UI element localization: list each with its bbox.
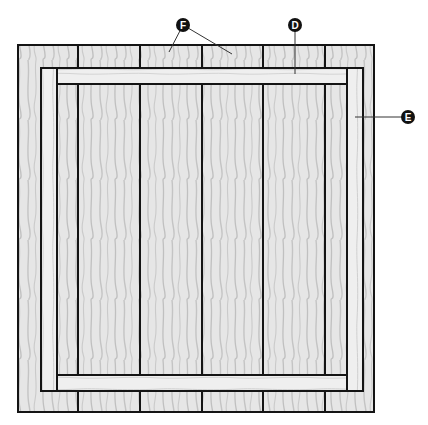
- left-stile: [41, 68, 57, 391]
- top-rail: [57, 68, 347, 84]
- door-assembly-diagram: F D E: [0, 0, 428, 425]
- board-4: [202, 45, 263, 412]
- bottom-rail: [57, 375, 347, 391]
- board-2: [78, 45, 140, 412]
- label-e: E: [405, 112, 412, 123]
- boards-group: [18, 45, 374, 412]
- board-3: [140, 45, 202, 412]
- board-5: [263, 45, 325, 412]
- label-d: D: [291, 20, 298, 31]
- label-f: F: [180, 20, 186, 31]
- right-stile: [347, 68, 363, 391]
